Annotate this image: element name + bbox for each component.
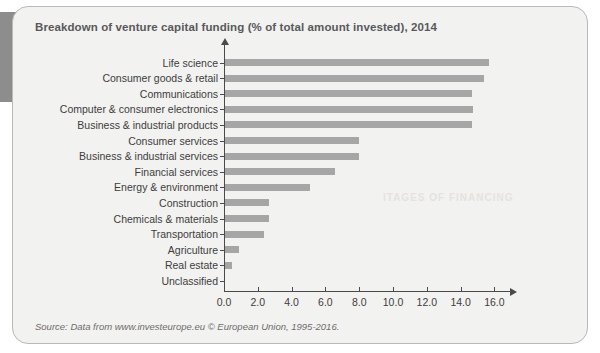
bar — [225, 90, 472, 97]
category-label: Communications — [0, 89, 218, 100]
bar — [225, 137, 359, 144]
y-tick-mark — [220, 172, 224, 173]
category-label: Business & industrial services — [0, 151, 218, 162]
x-tick-mark — [224, 287, 225, 291]
bar — [225, 168, 335, 175]
y-tick-mark — [220, 219, 224, 220]
bar — [225, 75, 484, 82]
category-label: Unclassified — [0, 276, 218, 287]
category-label: Financial services — [0, 167, 218, 178]
y-tick-mark — [220, 281, 224, 282]
source-note: Source: Data from www.investeurope.eu © … — [35, 321, 339, 332]
x-tick-mark — [325, 287, 326, 291]
y-tick-mark — [220, 234, 224, 235]
category-label: Consumer goods & retail — [0, 73, 218, 84]
bar — [225, 153, 359, 160]
y-tick-mark — [220, 94, 224, 95]
bar — [225, 246, 239, 253]
y-axis-arrow — [221, 38, 229, 45]
x-axis-line — [224, 291, 510, 292]
category-label: Chemicals & materials — [0, 214, 218, 225]
y-tick-mark — [220, 109, 224, 110]
x-tick-label: 16.0 — [474, 296, 514, 308]
y-tick-mark — [220, 63, 224, 64]
y-tick-mark — [220, 125, 224, 126]
category-label: Life science — [0, 58, 218, 69]
bar — [225, 59, 489, 66]
x-tick-mark — [359, 287, 360, 291]
bar — [225, 262, 232, 269]
y-tick-mark — [220, 78, 224, 79]
bar — [225, 231, 264, 238]
x-tick-mark — [258, 287, 259, 291]
category-label: Agriculture — [0, 245, 218, 256]
y-tick-mark — [220, 250, 224, 251]
x-axis-arrow — [510, 288, 517, 296]
x-tick-mark — [427, 287, 428, 291]
y-tick-mark — [220, 156, 224, 157]
bar — [225, 199, 269, 206]
category-label: Business & industrial products — [0, 120, 218, 131]
bar — [225, 184, 310, 191]
chart-panel: ITAGES OF FINANCING Breakdown of venture… — [12, 6, 588, 344]
category-label: Energy & environment — [0, 182, 218, 193]
bar — [225, 215, 269, 222]
category-label: Transportation — [0, 229, 218, 240]
x-tick-mark — [494, 287, 495, 291]
category-label: Construction — [0, 198, 218, 209]
plot-area: Life scienceConsumer goods & retailCommu… — [13, 7, 589, 345]
bar — [225, 106, 473, 113]
x-tick-mark — [292, 287, 293, 291]
y-tick-mark — [220, 265, 224, 266]
category-label: Consumer services — [0, 136, 218, 147]
y-tick-mark — [220, 203, 224, 204]
bar — [225, 121, 472, 128]
category-label: Computer & consumer electronics — [0, 104, 218, 115]
category-label: Real estate — [0, 260, 218, 271]
y-tick-mark — [220, 187, 224, 188]
y-tick-mark — [220, 141, 224, 142]
chart-page: ITAGES OF FINANCING Breakdown of venture… — [0, 0, 600, 353]
x-tick-mark — [393, 287, 394, 291]
x-tick-mark — [461, 287, 462, 291]
